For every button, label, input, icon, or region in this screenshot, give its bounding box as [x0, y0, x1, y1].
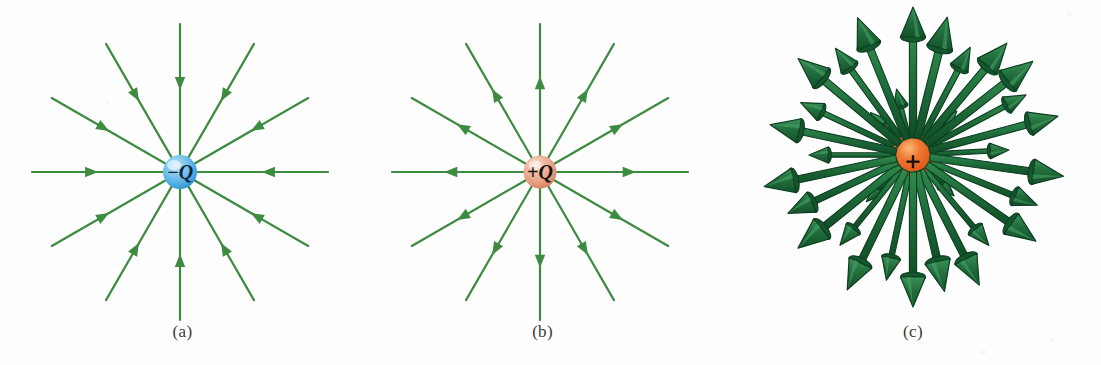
panel-caption-a: (a): [0, 322, 365, 342]
panel-b-field-diagram: +Q: [360, 0, 725, 330]
panel-c-3d-positive-charge: (c): [725, 0, 1101, 365]
field-vector-cone: [901, 7, 926, 37]
field-vector-cone: [882, 256, 901, 280]
field-line-arrowhead: [95, 213, 109, 224]
field-line-arrowhead: [175, 254, 185, 267]
field-line-arrowhead: [251, 213, 265, 224]
scan-speckle: [1049, 338, 1055, 342]
field-line-arrowhead: [535, 255, 545, 268]
field-vector-cone: [990, 143, 1009, 158]
panel-b-positive-charge: +Q (b): [360, 0, 725, 365]
panel-caption-b: (b): [360, 322, 725, 342]
field-line: [553, 180, 668, 247]
field-line-arrowhead: [262, 167, 275, 177]
field-line-arrowhead: [492, 89, 503, 103]
field-line-arrowhead: [577, 89, 588, 103]
field-line-arrowhead: [128, 243, 139, 257]
panel-a-negative-charge: −Q (a): [0, 0, 365, 365]
field-line-arrowhead: [457, 124, 471, 135]
scan-speckle: [980, 350, 987, 354]
charge-label-a: −Q: [167, 161, 194, 183]
field-line-arrowhead: [128, 87, 139, 101]
field-vector-cone: [901, 277, 926, 307]
field-line-arrowhead: [85, 167, 98, 177]
field-line-arrowhead: [609, 209, 623, 220]
field-vector-cone: [927, 17, 952, 51]
field-line: [548, 185, 615, 300]
field-vector-shaft: [909, 172, 916, 279]
field-vector-cone: [809, 147, 828, 163]
field-vector-cone: [1031, 159, 1063, 184]
field-line-arrowhead: [492, 241, 503, 255]
field-line-arrowhead: [95, 120, 109, 131]
field-line-arrowhead: [221, 243, 232, 257]
field-line-arrowhead: [577, 241, 588, 255]
field-line-arrowhead: [535, 76, 545, 89]
field-vector-cone: [770, 119, 801, 143]
panel-a-field-diagram: −Q: [0, 0, 365, 330]
field-line: [553, 98, 668, 165]
field-line: [412, 98, 527, 165]
field-line-arrowhead: [609, 124, 623, 135]
field-line-arrowhead: [175, 77, 185, 90]
panel-c-field-diagram-3d: [725, 0, 1101, 330]
field-line-arrowhead: [623, 167, 636, 177]
field-line-arrowhead: [457, 209, 471, 220]
field-line-arrowhead: [444, 167, 457, 177]
figure-root: −Q (a) +Q (b): [0, 0, 1101, 365]
field-vector-shaft: [909, 35, 916, 138]
field-line-arrowhead: [251, 120, 265, 131]
field-line: [412, 180, 527, 247]
field-line: [548, 44, 615, 159]
charge-label-b: +Q: [527, 161, 553, 183]
field-vector-shaft: [925, 162, 1015, 228]
field-line-arrowhead: [221, 87, 232, 101]
scan-speckle: [105, 100, 109, 104]
field-line: [466, 44, 533, 159]
scan-speckle: [1067, 12, 1072, 17]
field-line: [466, 185, 533, 300]
panel-caption-c: (c): [725, 322, 1101, 342]
